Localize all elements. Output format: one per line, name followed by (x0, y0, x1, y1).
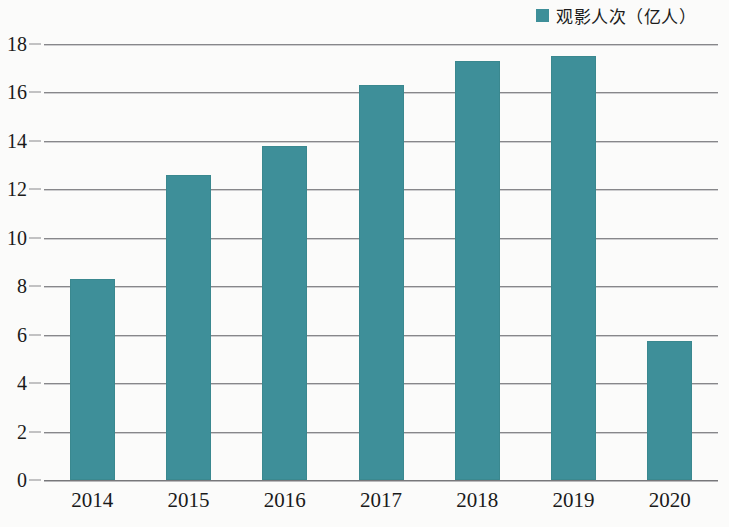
x-axis-tick-label: 2016 (240, 489, 330, 512)
y-axis-tick-mark (29, 44, 41, 45)
y-axis-tick-mark (29, 286, 41, 287)
y-axis-tick-mark (29, 334, 41, 335)
x-axis-ticks: 2014201520162017201820192020 (44, 489, 718, 523)
y-axis-tick-label: 4 (0, 373, 27, 393)
bar-2020 (647, 341, 692, 480)
y-axis-tick-label: 0 (0, 470, 27, 490)
bar-2015 (166, 175, 211, 480)
gridline (44, 480, 718, 482)
y-axis-tick-mark (29, 237, 41, 238)
bars-layer (44, 44, 718, 480)
bar-2017 (359, 85, 404, 480)
y-axis-tick-label: 16 (0, 82, 27, 102)
x-axis-tick-label: 2015 (143, 489, 233, 512)
y-axis-tick-label: 8 (0, 276, 27, 296)
x-axis-tick-label: 2014 (47, 489, 137, 512)
legend-label: 观影人次（亿人） (556, 3, 696, 28)
y-axis-tick-label: 6 (0, 325, 27, 345)
y-axis-tick-label: 10 (0, 228, 27, 248)
plot-area: 024681012141618 (44, 44, 718, 480)
y-axis-tick-mark (29, 431, 41, 432)
y-axis-tick-mark (29, 480, 41, 481)
y-axis-tick-mark (29, 92, 41, 93)
bar-2019 (551, 56, 596, 480)
x-axis-tick-label: 2019 (529, 489, 619, 512)
y-axis-tick-mark (29, 140, 41, 141)
x-axis-tick-label: 2020 (625, 489, 715, 512)
x-axis-tick-label: 2017 (336, 489, 426, 512)
y-axis-tick-label: 14 (0, 131, 27, 151)
x-axis-tick-label: 2018 (432, 489, 522, 512)
chart-legend: 观影人次（亿人） (536, 2, 696, 28)
bar-2018 (455, 61, 500, 480)
y-axis-tick-mark (29, 189, 41, 190)
y-axis-tick-label: 18 (0, 34, 27, 54)
y-axis-tick-label: 2 (0, 422, 27, 442)
bar-2016 (262, 146, 307, 480)
bar-chart-figure: 观影人次（亿人） 024681012141618 201420152016201… (0, 0, 729, 527)
y-axis-tick-label: 12 (0, 179, 27, 199)
y-axis-tick-mark (29, 383, 41, 384)
bar-2014 (70, 279, 115, 480)
legend-color-swatch (536, 9, 549, 22)
